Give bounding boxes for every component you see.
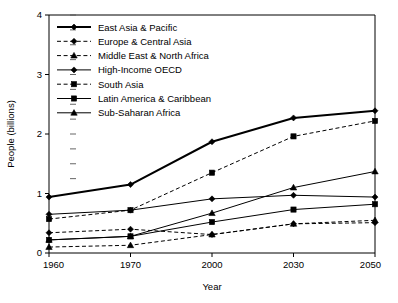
y-tick-label: 3	[37, 69, 42, 80]
data-point-marker	[46, 230, 52, 236]
legend-item-label: East Asia & Pacific	[98, 22, 177, 33]
data-point-marker	[372, 168, 378, 174]
data-point-marker	[71, 96, 76, 101]
legend-item-0[interactable]: East Asia & Pacific	[57, 22, 177, 33]
legend-item-5[interactable]: Latin America & Caribbean	[57, 93, 211, 104]
legend-item-3[interactable]: High-Income OECD	[57, 64, 182, 75]
population-line-chart: 01234 19601970200020302050 East Asia & P…	[0, 0, 398, 303]
x-tick-label: 2000	[201, 259, 222, 270]
legend-item-1[interactable]: Europe & Central Asia	[57, 36, 192, 47]
legend-item-2[interactable]: Middle East & North Africa	[57, 50, 210, 61]
data-point-marker	[209, 219, 214, 224]
series-line	[49, 171, 375, 239]
data-point-marker	[291, 115, 297, 121]
legend-item-label: South Asia	[98, 79, 144, 90]
x-axis-tick-labels: 19601970200020302050	[43, 259, 381, 270]
data-point-marker	[209, 170, 214, 175]
y-tick-label: 0	[37, 247, 42, 258]
x-tick-label: 2030	[283, 259, 304, 270]
legend-item-label: Sub-Saharan Africa	[98, 107, 181, 118]
data-point-marker	[128, 226, 134, 232]
series-4	[46, 118, 377, 221]
chart-canvas: 01234 19601970200020302050 East Asia & P…	[0, 0, 398, 303]
legend-item-label: High-Income OECD	[98, 64, 182, 75]
data-point-marker	[71, 67, 77, 73]
x-axis-ticks	[49, 253, 375, 257]
x-tick-label: 1960	[43, 259, 64, 270]
data-point-marker	[372, 194, 378, 200]
data-point-marker	[372, 202, 377, 207]
legend-item-label: Latin America & Caribbean	[98, 93, 211, 104]
data-point-marker	[128, 208, 133, 213]
data-series-layer	[46, 108, 378, 250]
legend-item-6[interactable]: Sub-Saharan Africa	[57, 107, 181, 118]
data-point-marker	[372, 217, 378, 223]
series-0	[46, 108, 378, 200]
legend-item-4[interactable]: South Asia	[57, 79, 144, 90]
data-point-marker	[372, 108, 378, 114]
series-line	[49, 111, 375, 197]
chart-legend: East Asia & PacificEurope & Central Asia…	[57, 22, 211, 119]
data-point-marker	[291, 192, 297, 198]
y-axis-tick-labels: 01234	[37, 9, 42, 258]
legend-item-label: Europe & Central Asia	[98, 36, 192, 47]
data-point-marker	[71, 24, 77, 30]
x-tick-label: 2050	[360, 259, 381, 270]
data-point-marker	[209, 196, 215, 202]
y-tick-label: 2	[37, 128, 42, 139]
y-tick-label: 1	[37, 188, 42, 199]
y-tick-label: 4	[37, 9, 42, 20]
data-point-marker	[291, 134, 296, 139]
data-point-marker	[372, 118, 377, 123]
data-point-marker	[46, 194, 52, 200]
x-tick-label: 1970	[120, 259, 141, 270]
y-axis-title: People (billions)	[5, 100, 16, 168]
data-point-marker	[291, 207, 296, 212]
legend-item-label: Middle East & North Africa	[98, 50, 210, 61]
data-point-marker	[46, 216, 51, 221]
x-axis-title: Year	[202, 281, 221, 292]
data-point-marker	[71, 82, 76, 87]
data-point-marker	[71, 38, 77, 44]
